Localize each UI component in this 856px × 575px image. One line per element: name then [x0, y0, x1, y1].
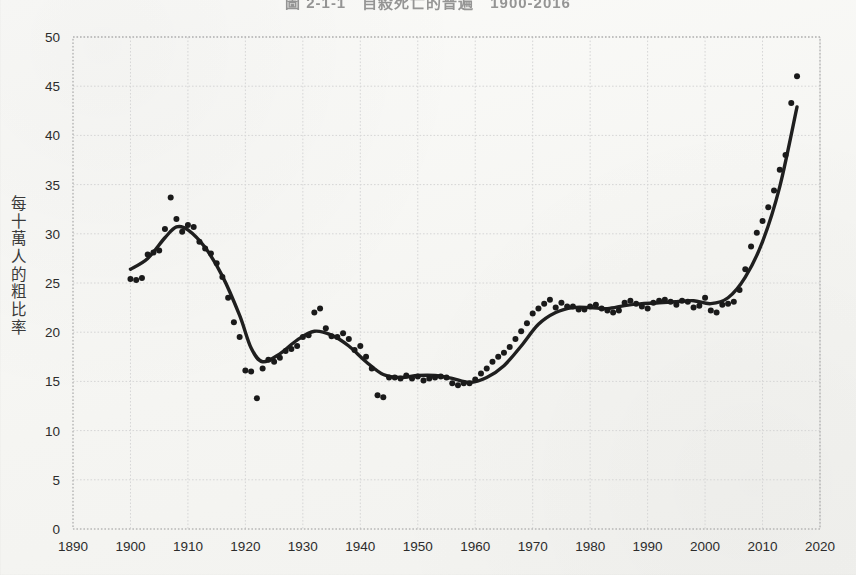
data-point	[139, 275, 145, 281]
data-point	[231, 319, 237, 325]
data-point	[547, 297, 553, 303]
data-point	[260, 366, 266, 372]
data-point	[593, 302, 599, 308]
data-point	[208, 250, 214, 256]
data-point	[133, 277, 139, 283]
data-point	[771, 188, 777, 194]
y-tick-label: 5	[52, 473, 60, 488]
data-point	[512, 336, 518, 342]
data-point	[656, 298, 662, 304]
data-point	[421, 377, 427, 383]
data-point	[242, 368, 248, 374]
data-point	[283, 348, 289, 354]
data-point	[576, 307, 582, 313]
data-point	[386, 374, 392, 380]
data-point	[639, 304, 645, 310]
y-tick-label: 45	[45, 79, 60, 94]
data-point	[484, 366, 490, 372]
data-point	[478, 371, 484, 377]
data-point	[702, 295, 708, 301]
data-point	[248, 369, 254, 375]
data-point	[737, 287, 743, 293]
data-point	[409, 375, 415, 381]
x-tick-label: 1930	[288, 539, 318, 554]
data-point	[202, 246, 208, 252]
x-tick-label: 1920	[230, 539, 260, 554]
data-point	[645, 306, 651, 312]
data-point	[311, 310, 317, 316]
chart-page: 圖 2-1-1 自殺死亡的普遍 1900-2016 每 十 萬 人 的 粗 比 …	[0, 0, 856, 575]
data-point	[254, 395, 260, 401]
data-point	[449, 380, 455, 386]
data-point	[633, 301, 639, 307]
data-point	[472, 376, 478, 382]
x-tick-label: 2000	[690, 539, 720, 554]
data-point	[265, 357, 271, 363]
data-point	[794, 73, 800, 79]
y-tick-label: 20	[45, 325, 60, 340]
gridlines	[73, 37, 820, 529]
data-point	[564, 304, 570, 310]
data-point	[650, 300, 656, 306]
data-point	[237, 334, 243, 340]
data-point	[558, 300, 564, 306]
data-point	[627, 298, 633, 304]
data-point	[352, 347, 358, 353]
data-point	[765, 204, 771, 210]
y-tick-label: 50	[45, 30, 60, 45]
data-point	[455, 382, 461, 388]
data-point	[495, 354, 501, 360]
data-point	[392, 374, 398, 380]
data-point	[329, 333, 335, 339]
data-point	[581, 307, 587, 313]
y-tick-labels: 05101520253035404550	[45, 30, 60, 537]
data-point	[271, 359, 277, 365]
x-tick-label: 1900	[115, 539, 145, 554]
data-point	[788, 100, 794, 106]
y-tick-label: 0	[52, 522, 60, 537]
x-tick-label: 2010	[748, 539, 778, 554]
data-point	[489, 359, 495, 365]
data-point	[438, 373, 444, 379]
data-point	[553, 305, 559, 311]
data-point	[742, 266, 748, 272]
data-point	[507, 344, 513, 350]
data-point	[168, 194, 174, 200]
y-tick-label: 25	[45, 276, 60, 291]
x-tick-label: 1950	[403, 539, 433, 554]
x-tick-label: 1940	[345, 539, 375, 554]
trend-line-path	[130, 107, 797, 383]
data-point	[214, 260, 220, 266]
data-point	[696, 303, 702, 309]
data-point	[162, 226, 168, 232]
data-point	[156, 248, 162, 254]
data-point	[185, 222, 191, 228]
x-tick-label: 1980	[575, 539, 605, 554]
data-point	[375, 392, 381, 398]
data-point	[461, 380, 467, 386]
data-point	[346, 336, 352, 342]
data-point	[398, 375, 404, 381]
data-point	[300, 334, 306, 340]
data-point	[369, 366, 375, 372]
data-point	[403, 373, 409, 379]
data-point	[622, 300, 628, 306]
data-point	[340, 330, 346, 336]
data-point	[380, 394, 386, 400]
data-point	[501, 350, 507, 356]
data-point	[587, 304, 593, 310]
x-tick-label: 1960	[460, 539, 490, 554]
data-point	[426, 375, 432, 381]
x-tick-label: 1910	[173, 539, 203, 554]
data-point	[679, 298, 685, 304]
data-point	[179, 229, 185, 235]
x-tick-label: 1990	[633, 539, 663, 554]
data-point	[714, 310, 720, 316]
data-point	[127, 276, 133, 282]
data-point	[691, 305, 697, 311]
data-point	[783, 152, 789, 158]
data-point	[668, 299, 674, 305]
data-point	[150, 250, 156, 256]
data-point	[777, 167, 783, 173]
data-point	[363, 354, 369, 360]
